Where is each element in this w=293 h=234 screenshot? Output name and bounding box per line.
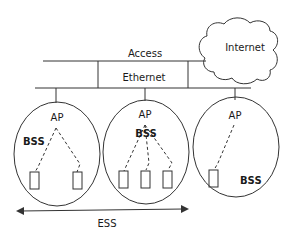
ap-label-2: AP [139,109,152,120]
ess-arrow-left-head [16,207,24,215]
ethernet-label: Ethernet [122,72,165,83]
station-icon [73,172,82,189]
wireless-link [214,125,234,170]
access-label: Access [128,48,162,59]
ess-label: ESS [97,218,116,229]
ap-label-3: AP [229,110,242,121]
station-icon [209,170,218,187]
bss-label-1: BSS [23,136,45,147]
wireless-link [35,128,56,172]
bss-label-2: BSS [135,128,157,139]
station-icon [30,172,39,189]
station-icon [141,171,150,188]
wireless-ess-diagram: Access Ethernet Internet AP BSS AP BSS A… [0,0,293,234]
bss-label-3: BSS [240,175,262,186]
ap-label-1: AP [51,112,64,123]
station-icon [119,171,128,188]
ess-arrow-right-head [181,205,189,213]
internet-label: Internet [225,42,265,53]
station-icon [163,171,172,188]
wireless-link [56,128,80,172]
ess-arrow-line [20,209,184,211]
